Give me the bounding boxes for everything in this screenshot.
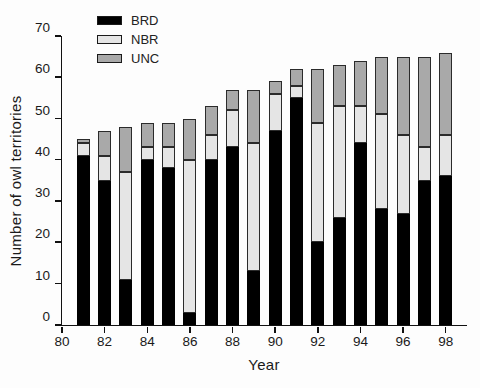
segment-brd bbox=[354, 143, 367, 325]
x-tick-label: 92 bbox=[310, 334, 325, 349]
y-tick-label: 10 bbox=[35, 268, 50, 283]
segment-unc bbox=[141, 123, 154, 148]
segment-brd bbox=[439, 176, 452, 325]
bar-year-81 bbox=[77, 139, 90, 325]
x-tick-label: 80 bbox=[54, 334, 69, 349]
x-tick-label: 98 bbox=[438, 334, 453, 349]
segment-unc bbox=[247, 90, 260, 144]
segment-unc bbox=[162, 123, 175, 148]
segment-nbr bbox=[247, 143, 260, 271]
segment-unc bbox=[226, 90, 239, 111]
bar-year-93 bbox=[333, 65, 346, 325]
x-tick bbox=[232, 327, 234, 333]
bar-year-98 bbox=[439, 53, 452, 325]
segment-nbr bbox=[439, 135, 452, 176]
legend-item-nbr: NBR bbox=[97, 32, 159, 47]
legend-item-unc: UNC bbox=[97, 51, 159, 66]
bar-year-90 bbox=[269, 81, 282, 325]
bar-year-96 bbox=[397, 57, 410, 325]
bar-year-91 bbox=[290, 69, 303, 325]
bar-year-84 bbox=[141, 123, 154, 325]
segment-unc bbox=[333, 65, 346, 106]
bar-year-92 bbox=[311, 69, 324, 325]
bar-year-97 bbox=[418, 57, 431, 325]
segment-unc bbox=[311, 69, 324, 123]
segment-unc bbox=[439, 53, 452, 136]
y-tick bbox=[55, 118, 61, 120]
y-tick-label: 60 bbox=[35, 61, 50, 76]
x-tick bbox=[189, 327, 191, 333]
y-tick-label: 30 bbox=[35, 185, 50, 200]
segment-unc bbox=[418, 57, 431, 148]
segment-nbr bbox=[354, 106, 367, 143]
segment-nbr bbox=[162, 147, 175, 168]
segment-unc bbox=[183, 119, 196, 160]
legend-label: UNC bbox=[131, 51, 159, 66]
segment-nbr bbox=[98, 156, 111, 181]
segment-nbr bbox=[77, 143, 90, 155]
y-tick-label: 0 bbox=[42, 309, 50, 324]
bar-year-86 bbox=[183, 119, 196, 325]
legend-label: BRD bbox=[131, 13, 158, 28]
y-tick bbox=[55, 324, 61, 326]
x-tick-label: 88 bbox=[225, 334, 240, 349]
x-tick bbox=[317, 327, 319, 333]
bar-year-87 bbox=[205, 106, 218, 325]
segment-brd bbox=[311, 242, 324, 325]
x-tick-label: 84 bbox=[140, 334, 155, 349]
segment-brd bbox=[98, 181, 111, 326]
x-tick bbox=[445, 327, 447, 333]
segment-brd bbox=[183, 313, 196, 325]
segment-nbr bbox=[375, 114, 388, 209]
y-axis-title: Number of owl territories bbox=[7, 96, 24, 267]
segment-nbr bbox=[397, 135, 410, 213]
segment-nbr bbox=[418, 147, 431, 180]
segment-nbr bbox=[333, 106, 346, 217]
x-tick bbox=[402, 327, 404, 333]
x-tick-label: 82 bbox=[97, 334, 112, 349]
segment-unc bbox=[205, 106, 218, 135]
segment-nbr bbox=[290, 86, 303, 98]
segment-brd bbox=[333, 218, 346, 325]
x-tick-label: 96 bbox=[396, 334, 411, 349]
segment-brd bbox=[375, 209, 388, 325]
segment-brd bbox=[162, 168, 175, 325]
y-tick bbox=[55, 76, 61, 78]
x-tick-label: 94 bbox=[353, 334, 368, 349]
bar-year-82 bbox=[98, 131, 111, 325]
segment-unc bbox=[269, 81, 282, 93]
segment-nbr bbox=[226, 110, 239, 147]
y-tick-label: 70 bbox=[35, 20, 50, 35]
segment-brd bbox=[290, 98, 303, 325]
x-tick-label: 86 bbox=[182, 334, 197, 349]
y-tick bbox=[55, 283, 61, 285]
segment-nbr bbox=[141, 147, 154, 159]
bar-year-88 bbox=[226, 90, 239, 325]
x-tick bbox=[104, 327, 106, 333]
legend-label: NBR bbox=[131, 32, 158, 47]
x-tick-label: 90 bbox=[268, 334, 283, 349]
bar-year-94 bbox=[354, 61, 367, 325]
x-tick bbox=[61, 327, 63, 333]
x-axis-title: Year bbox=[248, 356, 280, 373]
segment-unc bbox=[397, 57, 410, 135]
legend: BRDNBRUNC bbox=[97, 13, 159, 66]
y-tick-label: 50 bbox=[35, 103, 50, 118]
x-tick bbox=[147, 327, 149, 333]
segment-unc bbox=[354, 61, 367, 106]
y-tick bbox=[55, 35, 61, 37]
segment-brd bbox=[77, 156, 90, 325]
segment-brd bbox=[141, 160, 154, 325]
segment-unc bbox=[290, 69, 303, 86]
plot-area: 01020304050607080828486889092949698 bbox=[61, 36, 467, 326]
legend-swatch-nbr bbox=[97, 35, 122, 44]
segment-brd bbox=[226, 147, 239, 325]
segment-brd bbox=[269, 131, 282, 325]
bar-year-85 bbox=[162, 123, 175, 325]
segment-unc bbox=[98, 131, 111, 156]
legend-item-brd: BRD bbox=[97, 13, 159, 28]
segment-nbr bbox=[183, 160, 196, 313]
segment-nbr bbox=[311, 123, 324, 243]
segment-brd bbox=[397, 214, 410, 325]
legend-swatch-brd bbox=[97, 16, 122, 25]
